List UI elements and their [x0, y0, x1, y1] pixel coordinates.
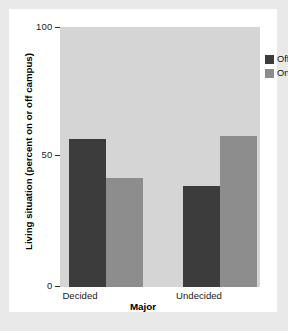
y-tick-label-100: 100 [36, 21, 52, 33]
figure-root: 100 50 0 Living situation (percent on or… [0, 0, 288, 331]
figure-card: 100 50 0 Living situation (percent on or… [9, 9, 277, 312]
bar-decided-on [106, 178, 143, 287]
y-axis: 100 50 0 [9, 9, 60, 312]
legend-label-on: On [277, 69, 288, 78]
y-tick-label-50: 50 [42, 149, 53, 161]
y-tick-100: 100 [36, 21, 60, 33]
legend-item-on: On [265, 67, 288, 79]
legend-swatch-off [265, 55, 274, 64]
legend-swatch-on [265, 69, 274, 78]
legend-item-off: Off [265, 53, 288, 65]
chart-legend: Off On [265, 53, 288, 81]
y-axis-title: Living situation (percent on or off camp… [23, 42, 34, 262]
plot-area: Off On [60, 27, 260, 287]
y-tick-50: 50 [42, 149, 60, 161]
bar-undecided-off [183, 186, 220, 287]
bar-decided-off [69, 139, 106, 287]
x-axis-title: Major [9, 301, 277, 312]
legend-label-off: Off [277, 55, 288, 64]
bar-undecided-on [220, 136, 257, 287]
x-tick-label-undecided: Undecided [164, 290, 234, 301]
x-tick-label-decided: Decided [50, 290, 110, 301]
